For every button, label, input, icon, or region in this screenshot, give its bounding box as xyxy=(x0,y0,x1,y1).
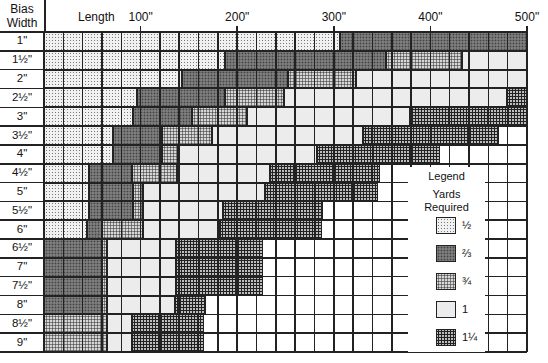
segment-one xyxy=(212,126,363,145)
segment-twothirds xyxy=(340,32,527,51)
segment-threequarters xyxy=(132,164,177,183)
segment-oneq xyxy=(265,183,378,202)
segment-one xyxy=(284,88,507,107)
segment-twothirds xyxy=(137,88,225,107)
row-label: 8" xyxy=(0,298,44,310)
grid-line-vertical xyxy=(198,32,200,352)
row-label: 4½" xyxy=(0,166,44,178)
length-axis-label: Length xyxy=(78,10,115,24)
grid-line-vertical xyxy=(488,32,490,352)
row-divider xyxy=(0,332,44,334)
row-divider xyxy=(0,351,44,353)
legend-swatch-one xyxy=(436,301,456,318)
segment-one xyxy=(462,51,527,70)
grid-line-vertical xyxy=(82,32,84,352)
legend-label: 1¼ xyxy=(462,331,477,343)
row-label: 1½" xyxy=(0,53,44,65)
legend-label: ½ xyxy=(462,219,471,231)
segment-one xyxy=(107,277,177,296)
row-divider xyxy=(0,201,44,203)
x-tick-label: 100" xyxy=(128,10,152,24)
row-label: 2½" xyxy=(0,91,44,103)
grid-line-horizontal xyxy=(44,107,527,109)
segment-threequarters xyxy=(192,107,247,126)
grid-line-vertical xyxy=(526,32,528,352)
grid-line-horizontal xyxy=(44,69,527,71)
grid-line-vertical xyxy=(314,32,316,352)
segment-oneq xyxy=(270,164,380,183)
legend-label: ¾ xyxy=(462,275,471,287)
grid-line-horizontal xyxy=(44,144,527,146)
segment-twothirds xyxy=(87,220,101,239)
row-divider xyxy=(0,125,44,127)
x-tick-label: 200" xyxy=(225,10,249,24)
row-divider xyxy=(0,50,44,52)
segment-oneq xyxy=(132,333,204,352)
row-label: 3" xyxy=(0,110,44,122)
bias-width-header: Bias Width xyxy=(0,2,44,30)
grid-line-vertical xyxy=(372,32,374,352)
segment-threequarters xyxy=(386,51,462,70)
x-tick-label: 400" xyxy=(418,10,442,24)
grid-line-vertical xyxy=(140,32,142,352)
segment-threequarters xyxy=(102,220,143,239)
segment-oneq xyxy=(175,296,206,315)
row-label: 5" xyxy=(0,185,44,197)
row-divider xyxy=(0,163,44,165)
grid-line-horizontal xyxy=(44,50,527,52)
row-divider xyxy=(0,238,44,240)
row-label: 8½" xyxy=(0,317,44,329)
grid-line-vertical xyxy=(178,32,180,352)
grid-line-horizontal xyxy=(44,88,527,90)
segment-one xyxy=(143,201,223,220)
legend-swatch-twothirds xyxy=(436,245,456,262)
segment-twothirds xyxy=(133,107,192,126)
segment-threequarters xyxy=(44,333,107,352)
segment-twothirds xyxy=(89,201,132,220)
grid-line-horizontal xyxy=(44,163,527,165)
segment-oneq xyxy=(507,88,527,107)
legend: Legend Yards Required ½⅔¾11¼ xyxy=(408,167,485,352)
segment-twothirds xyxy=(44,277,102,296)
bias-label: Bias xyxy=(0,2,44,16)
legend-label: ⅔ xyxy=(462,247,471,259)
legend-subtitle: Yards Required xyxy=(408,188,485,214)
grid-line-vertical xyxy=(121,32,123,352)
segment-one xyxy=(356,70,527,89)
legend-subtitle-yards: Yards xyxy=(408,188,485,201)
grid-line-vertical xyxy=(391,32,393,352)
segment-one xyxy=(143,183,266,202)
segment-oneq xyxy=(176,239,263,258)
grid-line-vertical xyxy=(275,32,277,352)
segment-twothirds xyxy=(225,51,386,70)
row-divider xyxy=(0,182,44,184)
segment-twothirds xyxy=(44,296,102,315)
row-label: 7" xyxy=(0,260,44,272)
grid-line-vertical xyxy=(352,32,354,352)
segment-threequarters xyxy=(162,126,212,145)
grid-line-vertical xyxy=(256,32,258,352)
legend-title: Legend xyxy=(408,170,485,182)
segment-one xyxy=(107,239,177,258)
grid-line-horizontal xyxy=(44,31,527,33)
row-divider xyxy=(0,88,44,90)
x-tick-label: 300" xyxy=(322,10,346,24)
segment-one xyxy=(107,258,177,277)
row-label: 9" xyxy=(0,336,44,348)
grid-line-horizontal xyxy=(44,125,527,127)
row-divider xyxy=(0,144,44,146)
segment-one xyxy=(107,333,132,352)
segment-half xyxy=(44,107,133,126)
row-divider xyxy=(0,314,44,316)
segment-twothirds xyxy=(89,183,132,202)
segment-one xyxy=(107,314,132,333)
grid-line-vertical xyxy=(294,32,296,352)
segment-threequarters xyxy=(44,314,107,333)
segment-threequarters xyxy=(162,145,178,164)
x-tick-label: 500" xyxy=(515,10,539,24)
segment-half xyxy=(44,70,182,89)
segment-threequarters xyxy=(288,70,356,89)
row-divider xyxy=(0,276,44,278)
legend-label: 1 xyxy=(462,303,468,315)
row-label: 1" xyxy=(0,34,44,46)
